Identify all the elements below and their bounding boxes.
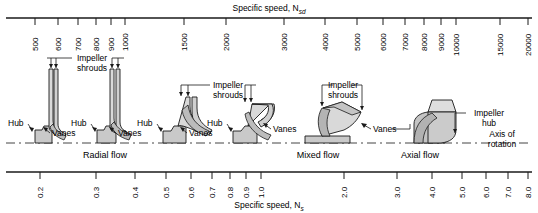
bottom-tick-label: 5.0: [458, 186, 467, 198]
bottom-tick-label: 0.9: [242, 186, 251, 198]
bottom-tick-label: 0.5: [162, 186, 171, 198]
callout-axis-of-rotation: Axis of rotation: [488, 129, 517, 149]
impeller-shrouds-label-2b: shrouds: [213, 90, 243, 100]
top-tick-label: 900: [107, 37, 116, 51]
top-tick-label: 6000: [379, 33, 388, 51]
top-tick-label: 1000: [121, 33, 130, 51]
impeller-shrouds-label-1: Impeller: [77, 53, 107, 63]
top-tick-label: 8000: [420, 33, 429, 51]
flow-regime-labels: Radial flow Mixed flow Axial flow: [83, 150, 440, 160]
top-tick-label: 10000: [452, 33, 461, 56]
top-tick-label: 15000: [496, 33, 505, 56]
axis-of-rotation-label: Axis of: [489, 129, 515, 139]
bottom-tick-label: 3.0: [393, 186, 402, 198]
bottom-tick-label: 2.0: [340, 186, 349, 198]
bottom-tick-label: 0.8: [226, 186, 235, 198]
vanes-label-3: Vanes: [189, 128, 212, 138]
bottom-tick-label: 1.0: [257, 186, 266, 198]
bottom-tick-label: 6.0: [482, 186, 491, 198]
impeller-mixed-5: [305, 102, 361, 143]
impeller-axial-6: [414, 100, 456, 143]
bottom-axis-tick-labels: 0.2 0.3 0.4 0.5 0.6 0.7 0.8 0.9 1.0 2.0 …: [36, 186, 533, 198]
bottom-tick-label: 7.0: [504, 186, 513, 198]
top-tick-label: 800: [92, 37, 101, 51]
bottom-tick-label: 0.2: [36, 186, 45, 198]
flow-regime-label: Radial flow: [83, 150, 128, 160]
top-tick-label: 600: [54, 37, 63, 51]
impeller-shrouds-label-3b: shrouds: [328, 90, 358, 100]
bottom-tick-label: 8.0: [524, 186, 533, 198]
diagram-canvas: Specific speed, Nsd 500 600 700 800 900 …: [0, 0, 538, 213]
top-tick-label: 500: [31, 37, 40, 51]
callout-impeller-shrouds-2: Impeller shrouds: [179, 80, 256, 102]
hub-label-4: Hub: [207, 118, 223, 128]
top-axis-ticks: [35, 18, 528, 25]
bottom-tick-label: 0.6: [187, 186, 196, 198]
bottom-axis-title: Specific speed, Ns: [234, 200, 304, 212]
bottom-tick-label: 0.4: [131, 186, 140, 198]
top-tick-label: 700: [74, 37, 83, 51]
top-tick-label: 5000: [353, 33, 362, 51]
top-tick-label: 4000: [321, 33, 330, 51]
impeller-hub-label: Impeller: [474, 108, 504, 118]
hub-label-2: Hub: [71, 118, 87, 128]
impeller-shrouds-label-1b: shrouds: [77, 63, 107, 73]
axis-of-rotation-label-b: rotation: [488, 139, 517, 149]
impeller-mixed-4: [233, 104, 275, 143]
top-tick-label: 3000: [280, 33, 289, 51]
top-tick-label: 7000: [401, 33, 410, 51]
flow-regime-label: Mixed flow: [297, 150, 340, 160]
bottom-tick-label: 0.3: [92, 186, 101, 198]
vanes-label-2: Vanes: [118, 128, 141, 138]
impeller-shrouds-label-3: Impeller: [328, 80, 358, 90]
flow-regime-label: Axial flow: [401, 150, 440, 160]
bottom-axis-ticks: [40, 172, 528, 179]
top-tick-label: 1500: [180, 33, 189, 51]
pump-specific-speed-diagram: Specific speed, Nsd 500 600 700 800 900 …: [0, 0, 538, 213]
top-tick-label: 20000: [524, 33, 533, 56]
bottom-tick-label: 4.0: [428, 186, 437, 198]
vanes-label-4: Vanes: [273, 124, 296, 134]
top-axis-title: Specific speed, Nsd: [232, 3, 305, 15]
hub-label-3: Hub: [137, 118, 153, 128]
top-tick-label: 2000: [222, 33, 231, 51]
hub-label-1: Hub: [8, 118, 24, 128]
vanes-label-1: Vanes: [52, 128, 75, 138]
impeller-hub-label-b: hub: [482, 118, 496, 128]
impeller-shrouds-label-2: Impeller: [213, 80, 243, 90]
bottom-tick-label: 0.7: [208, 186, 217, 198]
top-tick-label: 9000: [437, 33, 446, 51]
